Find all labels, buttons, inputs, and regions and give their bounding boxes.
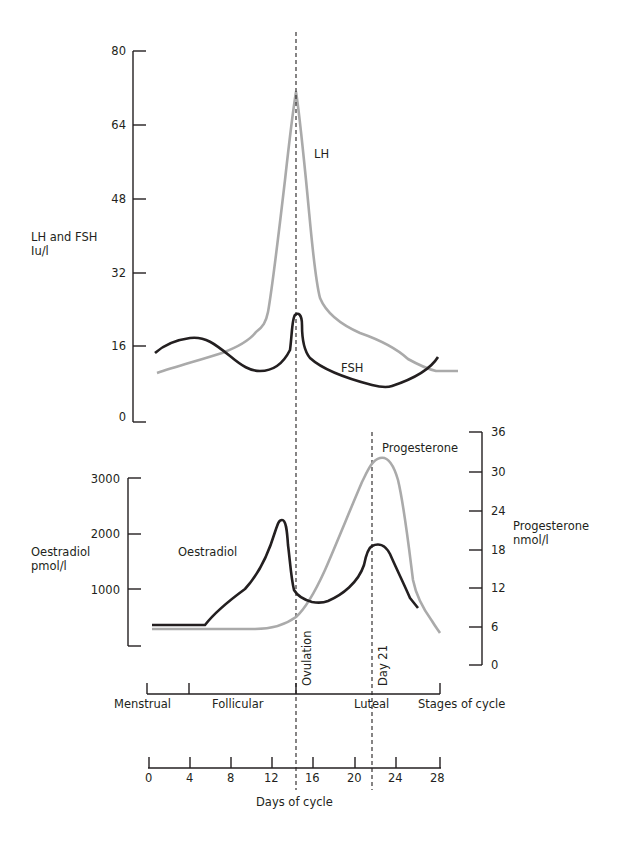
progesterone-tick-24: 24 <box>491 504 506 518</box>
ovulation-label: Ovulation <box>300 631 314 686</box>
day-tick-4: 4 <box>186 771 193 785</box>
lh-curve <box>157 92 458 373</box>
lh-fsh-tick-32: 32 <box>90 266 126 280</box>
day-tick-20: 20 <box>347 771 362 785</box>
lh-fsh-tick-64: 64 <box>90 118 126 132</box>
progesterone-axis-title-line2: nmol/l <box>513 533 589 547</box>
oestradiol-tick-3000: 3000 <box>70 472 120 486</box>
day-tick-28: 28 <box>430 771 445 785</box>
day-tick-8: 8 <box>227 771 234 785</box>
lh-fsh-tick-48: 48 <box>90 192 126 206</box>
progesterone-tick-18: 18 <box>491 543 506 557</box>
oestradiol-tick-1000: 1000 <box>70 583 120 597</box>
days-axis <box>148 757 441 768</box>
day-tick-16: 16 <box>305 771 320 785</box>
day-tick-12: 12 <box>264 771 279 785</box>
progesterone-tick-0: 0 <box>491 658 498 672</box>
lh-fsh-tick-80: 80 <box>90 44 126 58</box>
day-tick-0: 0 <box>145 771 152 785</box>
oestradiol-axis-title-line1: Oestradiol <box>31 545 90 559</box>
lh-fsh-y-axis <box>133 51 146 422</box>
oestradiol-tick-2000: 2000 <box>70 527 120 541</box>
oestradiol-y-axis <box>128 478 141 646</box>
lh-fsh-tick-16: 16 <box>90 339 126 353</box>
day21-label: Day 21 <box>376 645 390 686</box>
lh-series-label: LH <box>314 147 329 161</box>
progesterone-y-axis <box>469 432 482 665</box>
days-axis-title: Days of cycle <box>256 795 333 809</box>
progesterone-axis-title: Progesterone nmol/l <box>513 519 589 547</box>
stage-luteal: Luteal <box>354 697 389 711</box>
progesterone-axis-title-line1: Progesterone <box>513 519 589 533</box>
progesterone-tick-6: 6 <box>491 620 498 634</box>
progesterone-series-label: Progesterone <box>382 441 458 455</box>
stage-follicular: Follicular <box>212 697 263 711</box>
fsh-series-label: FSH <box>341 361 363 375</box>
oestradiol-axis-title: Oestradiol pmol/l <box>31 545 90 573</box>
day-tick-24: 24 <box>388 771 403 785</box>
lh-fsh-tick-0: 0 <box>90 410 126 424</box>
oestradiol-curve <box>152 520 418 625</box>
progesterone-tick-12: 12 <box>491 581 506 595</box>
stages-of-cycle-title: Stages of cycle <box>418 697 505 711</box>
lh-fsh-axis-title: LH and FSH Iu/l <box>31 230 97 258</box>
oestradiol-series-label: Oestradiol <box>178 545 237 559</box>
stage-menstrual: Menstrual <box>114 697 171 711</box>
lh-fsh-axis-title-line1: LH and FSH <box>31 230 97 244</box>
progesterone-tick-36: 36 <box>491 425 506 439</box>
oestradiol-axis-title-line2: pmol/l <box>31 559 90 573</box>
lh-fsh-axis-title-line2: Iu/l <box>31 244 97 258</box>
progesterone-tick-30: 30 <box>491 465 506 479</box>
stages-axis <box>147 683 440 694</box>
